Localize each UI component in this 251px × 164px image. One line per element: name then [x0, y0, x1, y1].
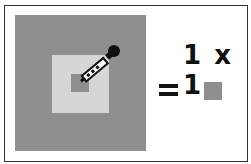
result-color-swatch — [204, 82, 222, 100]
eyedropper-icon — [76, 42, 124, 84]
equals-sign — [159, 84, 178, 97]
